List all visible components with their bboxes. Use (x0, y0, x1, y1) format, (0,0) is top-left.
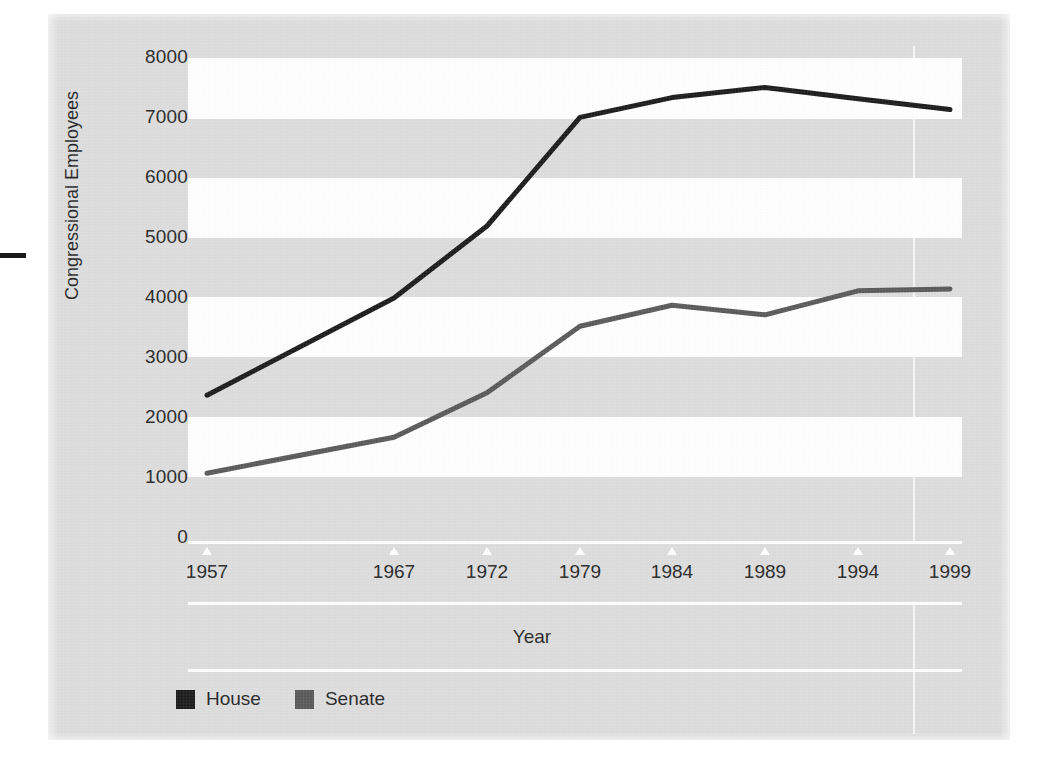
y-tick-label: 0 (177, 526, 188, 548)
legend-label-senate: Senate (325, 688, 385, 710)
x-tick-label: 1979 (559, 561, 601, 583)
y-tick-label: 4000 (145, 286, 188, 308)
x-tick-label: 1957 (186, 561, 228, 583)
y-tick-label: 6000 (145, 166, 188, 188)
x-tick-label: 1967 (373, 561, 415, 583)
x-tick-marker (202, 547, 212, 555)
legend-swatch-icon-house (176, 690, 195, 709)
line-series-house (207, 87, 950, 395)
x-tick-label: 1999 (929, 561, 971, 583)
figure-page: 8000 7000 6000 5000 4000 3000 2000 1000 … (0, 0, 1064, 783)
legend-label-house: House (206, 688, 261, 710)
x-tick-marker (482, 547, 492, 555)
line-series-senate (207, 289, 950, 473)
x-tick-marker (945, 547, 955, 555)
x-tick-label: 1989 (744, 561, 786, 583)
x-tick-label: 1984 (651, 561, 693, 583)
y-axis-title: Congressional Employees (62, 91, 83, 300)
y-tick-label: 1000 (145, 466, 188, 488)
legend-item-house[interactable]: House (176, 688, 261, 710)
x-tick-marker (667, 547, 677, 555)
y-tick-label: 5000 (145, 226, 188, 248)
x-tick-marker (575, 547, 585, 555)
y-tick-label: 2000 (145, 406, 188, 428)
x-tick-marker (853, 547, 863, 555)
x-tick-marker (389, 547, 399, 555)
legend-item-senate[interactable]: Senate (295, 688, 385, 710)
x-tick-label: 1972 (466, 561, 508, 583)
legend-swatch-icon-senate (295, 690, 314, 709)
y-tick-label: 7000 (145, 106, 188, 128)
x-tick-label: 1994 (837, 561, 879, 583)
chart-legend: House Senate (176, 688, 385, 710)
x-axis-title: Year (0, 626, 1064, 648)
x-tick-marker (760, 547, 770, 555)
y-tick-label: 8000 (145, 46, 188, 68)
y-tick-label: 3000 (145, 346, 188, 368)
